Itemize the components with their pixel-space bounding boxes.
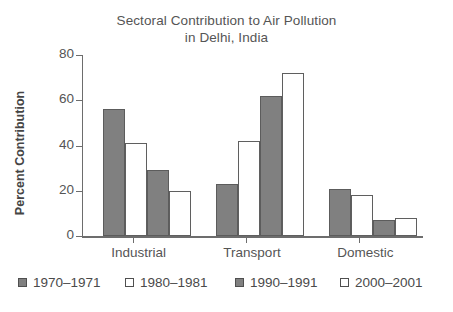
bar	[125, 143, 147, 236]
chart-title-line-1: Sectoral Contribution to Air Pollution	[0, 12, 453, 29]
chart-title-line-2: in Delhi, India	[0, 29, 453, 46]
legend-item[interactable]: 1990–1991	[235, 275, 318, 290]
bar	[395, 218, 417, 236]
x-tick-mark	[359, 236, 360, 243]
bar	[373, 220, 395, 236]
x-tick-mark	[246, 236, 247, 243]
category-label: Industrial	[79, 245, 199, 260]
bar-group	[329, 55, 417, 236]
bar	[329, 189, 351, 237]
plot-area: Percent Contribution 020406080 Industria…	[82, 55, 422, 236]
bar-group	[216, 55, 304, 236]
y-tick-label: 0	[40, 227, 74, 242]
legend-swatch-icon	[18, 278, 27, 287]
y-tick-mark	[76, 236, 82, 237]
chart-figure: Sectoral Contribution to Air Pollution i…	[0, 0, 453, 312]
y-tick-mark	[76, 191, 82, 192]
chart-legend: 1970–19711980–19811990–19912000–2001	[18, 272, 438, 292]
y-tick-mark	[76, 55, 82, 56]
y-tick-label: 20	[40, 182, 74, 197]
legend-item[interactable]: 1970–1971	[18, 275, 101, 290]
bar	[238, 141, 260, 236]
legend-swatch-icon	[340, 278, 349, 287]
bar	[216, 184, 238, 236]
bar	[282, 73, 304, 236]
y-tick-mark	[76, 100, 82, 101]
bar	[103, 109, 125, 236]
legend-label: 1980–1981	[140, 275, 208, 290]
y-axis-title: Percent Contribution	[13, 58, 27, 248]
y-tick-label: 80	[40, 46, 74, 61]
legend-swatch-icon	[235, 278, 244, 287]
bar	[169, 191, 191, 236]
bar	[351, 195, 373, 236]
bar	[260, 96, 282, 236]
y-tick-mark	[76, 146, 82, 147]
bar-group	[103, 55, 191, 236]
legend-label: 2000–2001	[355, 275, 423, 290]
y-tick-label: 40	[40, 137, 74, 152]
bar	[147, 170, 169, 236]
y-tick-label: 60	[40, 91, 74, 106]
legend-label: 1990–1991	[250, 275, 318, 290]
category-label: Transport	[192, 245, 312, 260]
legend-label: 1970–1971	[33, 275, 101, 290]
legend-swatch-icon	[125, 278, 134, 287]
legend-item[interactable]: 2000–2001	[340, 275, 423, 290]
category-label: Domestic	[305, 245, 425, 260]
legend-item[interactable]: 1980–1981	[125, 275, 208, 290]
x-tick-mark	[133, 236, 134, 243]
chart-title: Sectoral Contribution to Air Pollution i…	[0, 12, 453, 46]
y-axis-line	[82, 55, 83, 236]
